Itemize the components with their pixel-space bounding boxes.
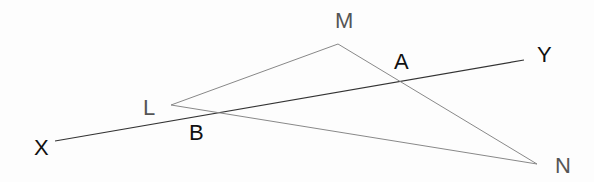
- label-n: N: [555, 153, 571, 178]
- line-xy: [55, 60, 524, 141]
- label-m: M: [335, 8, 353, 33]
- label-l: L: [143, 95, 155, 120]
- label-b: B: [189, 120, 204, 145]
- label-x: X: [34, 135, 49, 160]
- label-y: Y: [537, 42, 552, 67]
- geometry-figure: M A Y L B X N: [0, 0, 594, 182]
- segment-ln: [171, 105, 537, 164]
- label-a: A: [394, 49, 409, 74]
- segment-mn: [338, 44, 537, 164]
- diagram-canvas: M A Y L B X N: [0, 0, 594, 182]
- segment-lm: [171, 44, 338, 105]
